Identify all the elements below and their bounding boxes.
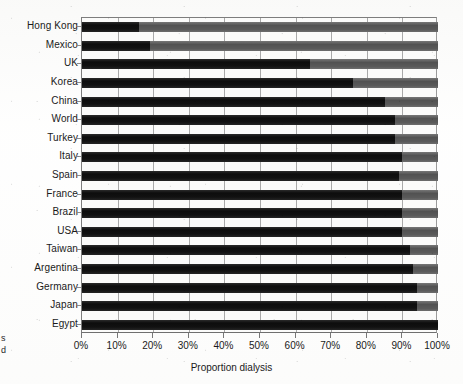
- bar-segment-remainder: [395, 115, 438, 125]
- bar-segment-remainder: [353, 78, 438, 88]
- category-tick: [77, 63, 81, 64]
- stacked-bar: [82, 134, 438, 144]
- x-tick-60: [295, 333, 296, 338]
- bar-segment-dialysis: [82, 59, 310, 69]
- bar-segment-dialysis: [82, 208, 402, 218]
- bar-segment-dialysis: [82, 152, 402, 162]
- category-tick: [77, 212, 81, 213]
- category-label-china: China: [51, 96, 78, 106]
- bar-segment-dialysis: [82, 41, 150, 51]
- category-tick: [77, 249, 81, 250]
- bar-row: [82, 245, 436, 255]
- stacked-bar: [82, 227, 438, 237]
- bar-segment-dialysis: [82, 190, 402, 200]
- bar-segment-dialysis: [82, 171, 399, 181]
- category-label-argentina: Argentina: [34, 263, 78, 273]
- bar-row: [82, 134, 436, 144]
- x-axis-title: Proportion dialysis: [0, 362, 463, 373]
- bar-segment-remainder: [410, 245, 438, 255]
- category-label-spain: Spain: [52, 170, 78, 180]
- category-label-japan: Japan: [50, 300, 78, 310]
- bar-segment-dialysis: [82, 134, 395, 144]
- bar-row: [82, 320, 436, 330]
- bar-segment-dialysis: [82, 22, 139, 32]
- category-label-korea: Korea: [51, 77, 78, 87]
- category-label-italy: Italy: [59, 151, 78, 161]
- category-label-turkey: Turkey: [47, 133, 78, 143]
- category-label-world: World: [52, 114, 78, 124]
- category-label-germany: Germany: [36, 282, 78, 292]
- bar-segment-remainder: [150, 41, 438, 51]
- bar-segment-dialysis: [82, 320, 438, 330]
- stacked-bar: [82, 283, 438, 293]
- x-tick-label-0: 0%: [74, 340, 88, 351]
- category-tick: [77, 324, 81, 325]
- category-tick: [77, 268, 81, 269]
- bar-row: [82, 190, 436, 200]
- x-tick-0: [81, 333, 82, 338]
- bar-segment-dialysis: [82, 115, 395, 125]
- bar-row: [82, 78, 436, 88]
- bar-segment-dialysis: [82, 283, 417, 293]
- bar-segment-remainder: [402, 190, 438, 200]
- x-tick-label-20: 20%: [142, 340, 162, 351]
- x-tick-label-50: 50%: [249, 340, 269, 351]
- bar-row: [82, 208, 436, 218]
- category-tick: [77, 194, 81, 195]
- x-tick-90: [401, 333, 402, 338]
- bar-segment-remainder: [417, 301, 438, 311]
- bar-segment-dialysis: [82, 78, 353, 88]
- stacked-bar: [82, 152, 438, 162]
- category-tick: [77, 101, 81, 102]
- x-tick-70: [330, 333, 331, 338]
- stacked-bar: [82, 208, 438, 218]
- bar-row: [82, 115, 436, 125]
- x-tick-label-10: 10%: [107, 340, 127, 351]
- x-tick-40: [223, 333, 224, 338]
- bar-row: [82, 97, 436, 107]
- category-label-usa: USA: [57, 226, 78, 236]
- stacked-bar: [82, 78, 438, 88]
- page-bleed-line-1: s: [1, 333, 6, 343]
- x-tick-20: [152, 333, 153, 338]
- bar-row: [82, 264, 436, 274]
- stacked-bar: [82, 190, 438, 200]
- x-tick-label-90: 90%: [391, 340, 411, 351]
- category-tick: [77, 175, 81, 176]
- x-tick-10: [117, 333, 118, 338]
- category-tick: [77, 45, 81, 46]
- bar-row: [82, 301, 436, 311]
- stacked-bar: [82, 320, 438, 330]
- bar-segment-remainder: [395, 134, 438, 144]
- bar-segment-remainder: [413, 264, 438, 274]
- bar-segment-remainder: [417, 283, 438, 293]
- stacked-bar: [82, 171, 438, 181]
- bar-segment-dialysis: [82, 264, 413, 274]
- category-tick: [77, 119, 81, 120]
- x-tick-label-80: 80%: [356, 340, 376, 351]
- stacked-bar: [82, 41, 438, 51]
- bar-segment-remainder: [310, 59, 438, 69]
- page-bleed-line-2: d: [1, 345, 6, 355]
- x-tick-label-100: 100%: [424, 340, 450, 351]
- bar-segment-remainder: [402, 227, 438, 237]
- category-label-france: France: [46, 189, 78, 199]
- bar-row: [82, 227, 436, 237]
- x-tick-label-40: 40%: [213, 340, 233, 351]
- category-label-hong-kong: Hong Kong: [27, 21, 78, 31]
- x-tick-label-60: 60%: [285, 340, 305, 351]
- category-tick: [77, 231, 81, 232]
- x-tick-label-70: 70%: [320, 340, 340, 351]
- bar-row: [82, 283, 436, 293]
- bar-segment-remainder: [402, 152, 438, 162]
- stacked-bar: [82, 245, 438, 255]
- category-label-uk: UK: [64, 58, 78, 68]
- bar-segment-dialysis: [82, 245, 410, 255]
- bar-row: [82, 152, 436, 162]
- bar-segment-dialysis: [82, 227, 402, 237]
- plot-area: [81, 17, 437, 333]
- bar-segment-remainder: [139, 22, 438, 32]
- stacked-bar: [82, 59, 438, 69]
- category-tick: [77, 287, 81, 288]
- bar-segment-remainder: [399, 171, 438, 181]
